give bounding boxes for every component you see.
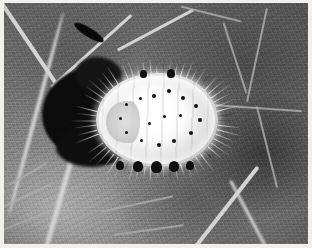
- ventral-notch: [186, 161, 194, 170]
- ventral-notch: [133, 161, 143, 172]
- wax-filament: [163, 61, 165, 74]
- dorsal-pore: [140, 139, 143, 142]
- wax-filament: [74, 125, 96, 129]
- ventral-notch: [169, 161, 179, 172]
- dorsal-pore: [139, 97, 142, 100]
- dorsal-pore: [189, 131, 193, 135]
- wax-filament: [217, 105, 241, 113]
- mealybug-insect: [84, 61, 230, 179]
- insect-body: [96, 73, 218, 167]
- dorsal-pore: [172, 139, 176, 143]
- wax-filament: [218, 113, 238, 117]
- wax-filament: [77, 113, 97, 117]
- photo-frame: [0, 0, 312, 248]
- wax-filament: [200, 153, 214, 171]
- wax-filament: [211, 142, 231, 156]
- ventral-notch: [151, 161, 162, 173]
- dorsal-pore: [152, 94, 156, 98]
- wax-filament: [143, 167, 146, 178]
- insect-head-cap: [106, 101, 140, 142]
- dorsal-pore: [167, 89, 171, 93]
- wax-filament: [75, 105, 97, 112]
- dorsal-notch: [167, 69, 175, 78]
- wax-filament: [71, 120, 96, 121]
- dorsal-notch: [140, 70, 147, 78]
- wax-filament: [128, 60, 135, 78]
- dorsal-pore: [157, 143, 161, 147]
- macro-photograph: [4, 3, 308, 244]
- wax-filament: [218, 125, 240, 129]
- wax-filament: [88, 79, 106, 95]
- wax-filament: [149, 59, 151, 74]
- wax-filament: [218, 120, 238, 121]
- wax-filament: [121, 63, 128, 79]
- wax-filament: [163, 167, 165, 177]
- ventral-notch: [116, 161, 124, 170]
- dorsal-pore: [194, 104, 198, 108]
- wax-filament: [180, 164, 185, 177]
